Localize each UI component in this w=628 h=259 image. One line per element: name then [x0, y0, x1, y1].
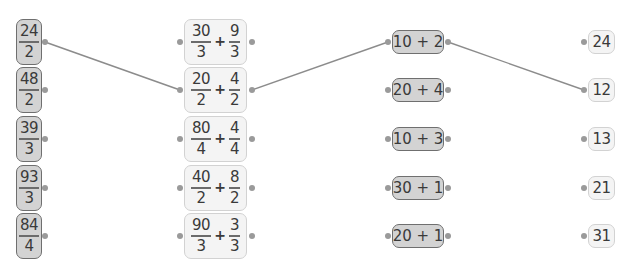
fraction-card-5[interactable]: 84 4 — [16, 213, 42, 259]
denominator: 2 — [229, 91, 240, 108]
connector-dot-sum-5-left[interactable] — [385, 233, 391, 239]
denominator: 2 — [229, 189, 240, 206]
connector-dot-sum-3-right[interactable] — [445, 136, 451, 142]
fraction-b: 4 4 — [229, 121, 240, 156]
result-card-4[interactable]: 21 — [588, 176, 615, 200]
fraction-a: 40 2 — [191, 170, 211, 205]
fraction-a: 80 4 — [191, 121, 211, 156]
connector-dot-split-sum-1-left[interactable] — [177, 39, 183, 45]
connector-sum1-to-result2 — [448, 42, 584, 90]
connector-dot-sum-1-left[interactable] — [385, 39, 391, 45]
fraction: 39 3 — [19, 121, 39, 156]
connector-dot-sum-5-right[interactable] — [445, 233, 451, 239]
denominator: 2 — [23, 43, 34, 60]
numerator: 4 — [229, 72, 240, 89]
connector-dot-sum-1-right[interactable] — [445, 39, 451, 45]
denominator: 3 — [23, 189, 34, 206]
connector-dot-result-1-left[interactable] — [581, 39, 587, 45]
connector-dot-result-4-left[interactable] — [581, 185, 587, 191]
connector-dot-result-3-left[interactable] — [581, 136, 587, 142]
denominator: 3 — [229, 237, 240, 254]
connector-splitsum2-to-sum1 — [252, 42, 388, 90]
connector-dot-split-sum-1-right[interactable] — [249, 39, 255, 45]
connector-dot-result-5-left[interactable] — [581, 233, 587, 239]
connector-dot-sum-2-left[interactable] — [385, 87, 391, 93]
connector-dot-split-sum-2-right[interactable] — [249, 87, 255, 93]
plus-sign: + — [214, 179, 226, 195]
denominator: 2 — [196, 189, 207, 206]
denominator: 3 — [229, 43, 240, 60]
plus-sign: + — [214, 130, 226, 146]
fraction-card-3[interactable]: 39 3 — [16, 116, 42, 162]
result-value: 31 — [592, 227, 610, 245]
connector-dot-fraction-5-right[interactable] — [42, 233, 48, 239]
split-sum-card-5[interactable]: 90 3 + 3 3 — [184, 213, 247, 259]
connector-dot-split-sum-3-left[interactable] — [177, 136, 183, 142]
connector-dot-split-sum-2-left[interactable] — [177, 87, 183, 93]
sum-card-2[interactable]: 20 + 4 — [392, 78, 444, 102]
connector-dot-split-sum-5-right[interactable] — [249, 233, 255, 239]
sum-label: 20 + 1 — [393, 227, 444, 245]
numerator: 84 — [19, 218, 39, 235]
fraction-card-4[interactable]: 93 3 — [16, 165, 42, 211]
result-card-5[interactable]: 31 — [588, 224, 615, 248]
sum-label: 10 + 3 — [393, 130, 444, 148]
denominator: 3 — [196, 43, 207, 60]
connector-dot-fraction-3-right[interactable] — [42, 136, 48, 142]
connector-dot-sum-3-left[interactable] — [385, 136, 391, 142]
plus-sign: + — [214, 227, 226, 243]
split-sum-card-3[interactable]: 80 4 + 4 4 — [184, 116, 247, 162]
sum-card-1[interactable]: 10 + 2 — [392, 30, 444, 54]
connector-dot-fraction-1-right[interactable] — [42, 39, 48, 45]
connector-dot-split-sum-5-left[interactable] — [177, 233, 183, 239]
fraction: 93 3 — [19, 170, 39, 205]
numerator: 9 — [229, 24, 240, 41]
numerator: 3 — [229, 218, 240, 235]
split-sum-card-1[interactable]: 30 3 + 9 3 — [184, 19, 247, 65]
fraction-card-1[interactable]: 24 2 — [16, 19, 42, 65]
connector-dot-result-2-left[interactable] — [581, 87, 587, 93]
connector-dot-fraction-2-right[interactable] — [42, 87, 48, 93]
denominator: 4 — [229, 140, 240, 157]
result-card-3[interactable]: 13 — [588, 127, 615, 151]
connector-dot-split-sum-4-right[interactable] — [249, 185, 255, 191]
numerator: 80 — [191, 121, 211, 138]
sum-card-4[interactable]: 30 + 1 — [392, 176, 444, 200]
sum-label: 10 + 2 — [393, 33, 444, 51]
connector-dot-split-sum-3-right[interactable] — [249, 136, 255, 142]
connector-dot-sum-4-right[interactable] — [445, 185, 451, 191]
denominator: 2 — [196, 91, 207, 108]
numerator: 4 — [229, 121, 240, 138]
fraction-b: 8 2 — [229, 170, 240, 205]
connector-dot-fraction-4-right[interactable] — [42, 185, 48, 191]
numerator: 20 — [191, 72, 211, 89]
connector-dot-split-sum-4-left[interactable] — [177, 185, 183, 191]
fraction: 48 2 — [19, 72, 39, 107]
result-card-2[interactable]: 12 — [588, 78, 615, 102]
numerator: 39 — [19, 121, 39, 138]
fraction-b: 4 2 — [229, 72, 240, 107]
numerator: 30 — [191, 24, 211, 41]
result-card-1[interactable]: 24 — [588, 30, 615, 54]
connector-dot-sum-4-left[interactable] — [385, 185, 391, 191]
denominator: 2 — [23, 91, 34, 108]
numerator: 48 — [19, 72, 39, 89]
numerator: 24 — [19, 24, 39, 41]
connector-dot-sum-2-right[interactable] — [445, 87, 451, 93]
fraction-b: 9 3 — [229, 24, 240, 59]
denominator: 4 — [196, 140, 207, 157]
split-sum-card-2[interactable]: 20 2 + 4 2 — [184, 67, 247, 113]
result-value: 21 — [592, 179, 610, 197]
denominator: 3 — [23, 140, 34, 157]
fraction-a: 90 3 — [191, 218, 211, 253]
plus-sign: + — [214, 33, 226, 49]
result-value: 13 — [592, 130, 610, 148]
split-sum-card-4[interactable]: 40 2 + 8 2 — [184, 165, 247, 211]
sum-label: 30 + 1 — [393, 179, 444, 197]
fraction: 84 4 — [19, 218, 39, 253]
denominator: 4 — [23, 237, 34, 254]
sum-card-3[interactable]: 10 + 3 — [392, 127, 444, 151]
fraction-card-2[interactable]: 48 2 — [16, 67, 42, 113]
sum-card-5[interactable]: 20 + 1 — [392, 224, 444, 248]
